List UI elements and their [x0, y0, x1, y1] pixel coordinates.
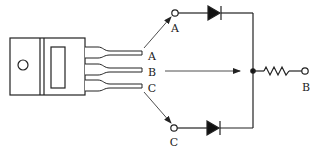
terminal-label-c: C [170, 137, 178, 148]
mapping-arrows [144, 17, 240, 123]
transistor-package [10, 38, 85, 95]
lead-label-a: A [148, 51, 156, 62]
circuit [171, 6, 308, 135]
package-leads [85, 47, 142, 91]
resistor-icon [264, 67, 289, 75]
lead-a [85, 47, 142, 58]
lead-label-c: C [148, 83, 156, 94]
arrow-a [144, 17, 171, 48]
terminal-label-a: A [171, 23, 179, 34]
diode-c-icon [207, 121, 219, 135]
terminal-label-b: B [302, 82, 310, 93]
terminal-a-icon [172, 10, 178, 16]
package-body [10, 38, 85, 95]
diode-a-icon [208, 6, 220, 20]
terminal-c-icon [171, 125, 177, 131]
lead-label-b: B [148, 67, 156, 78]
lead-b [85, 64, 142, 75]
circuit-diagram [0, 0, 315, 150]
terminal-b-icon [302, 68, 308, 74]
arrow-c [144, 92, 171, 123]
lead-c [85, 80, 142, 91]
